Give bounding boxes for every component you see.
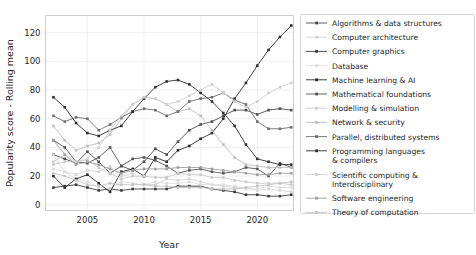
series-marker — [52, 172, 55, 175]
y-tick-label: 40 — [30, 142, 41, 152]
series-marker — [211, 170, 214, 173]
legend-item-label: Database — [332, 62, 369, 71]
series-marker — [267, 166, 270, 169]
legend-marker-swatch — [315, 149, 318, 152]
series-marker — [177, 166, 180, 169]
series-marker — [165, 168, 168, 171]
y-tick-label: 120 — [24, 28, 40, 38]
series-marker — [199, 173, 202, 176]
series-marker — [177, 182, 180, 185]
legend-marker-swatch — [315, 36, 318, 39]
series-marker — [154, 168, 157, 171]
series-marker — [256, 173, 259, 176]
series-marker — [222, 172, 225, 175]
series-marker — [63, 153, 66, 156]
series-marker — [120, 125, 123, 128]
series-marker — [154, 185, 157, 188]
series-marker — [245, 163, 248, 166]
series-marker — [222, 92, 225, 95]
y-axis-label: Popularity score - Rolling mean — [4, 39, 15, 187]
series-marker — [245, 186, 248, 189]
series-marker — [75, 163, 78, 166]
series-marker — [177, 79, 180, 82]
series-marker — [188, 169, 191, 172]
series-marker — [131, 103, 134, 106]
series-marker — [109, 191, 112, 194]
x-tick-label: 2010 — [133, 215, 155, 225]
series-marker — [97, 142, 100, 145]
series-marker — [97, 156, 100, 159]
series-marker — [245, 193, 248, 196]
series-marker — [120, 183, 123, 186]
series-marker — [188, 83, 191, 86]
series-marker — [279, 195, 282, 198]
series-marker — [75, 183, 78, 186]
y-tick-label: 80 — [30, 85, 41, 95]
series-marker — [120, 189, 123, 192]
series-marker — [109, 165, 112, 168]
series-marker — [52, 139, 55, 142]
y-tick-label: 100 — [24, 56, 40, 66]
series-marker — [52, 96, 55, 99]
series-marker — [188, 129, 191, 132]
series-marker — [199, 89, 202, 92]
series-marker — [245, 166, 248, 169]
series-marker — [97, 129, 100, 132]
series-marker — [211, 129, 214, 132]
series-marker — [245, 172, 248, 175]
series-marker — [154, 188, 157, 191]
series-marker — [222, 188, 225, 191]
series-marker — [245, 82, 248, 85]
series-marker — [290, 183, 293, 186]
legend-marker-swatch — [315, 78, 318, 81]
series-marker — [199, 186, 202, 189]
series-marker — [63, 160, 66, 163]
series-marker — [267, 195, 270, 198]
series-marker — [279, 163, 282, 166]
legend-item-label: Parallel, distributed systems — [332, 133, 440, 142]
series-marker — [86, 117, 89, 120]
series-marker — [52, 163, 55, 166]
series-marker — [279, 172, 282, 175]
series-marker — [154, 159, 157, 162]
series-marker — [290, 172, 293, 175]
x-axis-label: Year — [158, 239, 179, 250]
series-marker — [109, 123, 112, 126]
series-marker — [256, 64, 259, 67]
series-marker — [120, 175, 123, 178]
series-marker — [290, 126, 293, 129]
series-marker — [290, 24, 293, 27]
legend-item-label-line2: Interdisciplinary — [332, 180, 393, 189]
series-marker — [109, 182, 112, 185]
series-marker — [245, 109, 248, 112]
series-marker — [199, 115, 202, 118]
series-marker — [86, 183, 89, 186]
legend-marker-swatch — [315, 121, 318, 124]
series-marker — [279, 36, 282, 39]
series-marker — [267, 173, 270, 176]
series-marker — [177, 172, 180, 175]
series-marker — [154, 97, 157, 100]
series-marker — [267, 127, 270, 130]
series-marker — [256, 185, 259, 188]
series-marker — [188, 178, 191, 181]
series-marker — [165, 182, 168, 185]
legend-item-label: Computer architecture — [332, 33, 418, 42]
series-marker — [233, 125, 236, 128]
series-marker — [165, 153, 168, 156]
series-marker — [165, 176, 168, 179]
x-tick-label: 2015 — [190, 215, 212, 225]
series-marker — [267, 183, 270, 186]
series-marker — [177, 140, 180, 143]
series-marker — [97, 166, 100, 169]
series-marker — [211, 188, 214, 191]
series-marker — [233, 100, 236, 103]
series-marker — [63, 175, 66, 178]
series-marker — [143, 168, 146, 171]
series-marker — [86, 181, 89, 184]
legend-item-label: Theory of computation — [331, 208, 419, 217]
series-marker — [109, 172, 112, 175]
series-marker — [245, 143, 248, 146]
series-marker — [290, 193, 293, 196]
series-marker — [63, 139, 66, 142]
